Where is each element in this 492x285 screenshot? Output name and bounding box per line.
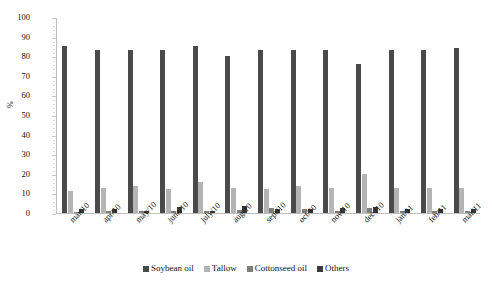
bar-group xyxy=(90,17,123,213)
y-axis-minor-tick xyxy=(53,124,55,125)
legend: Soybean oilTallowCottonseed oilOthers xyxy=(0,262,492,273)
y-axis-minor-tick xyxy=(53,210,55,211)
bar xyxy=(225,56,230,213)
bar xyxy=(323,50,328,213)
legend-label: Others xyxy=(325,263,349,273)
y-axis-minor-tick xyxy=(53,108,55,109)
bar-group xyxy=(155,17,188,213)
y-axis-minor-tick xyxy=(53,26,55,27)
y-axis-minor-tick xyxy=(53,42,55,43)
legend-swatch-icon xyxy=(317,266,323,272)
bar xyxy=(231,188,236,213)
bar xyxy=(291,50,296,213)
y-axis-minor-tick xyxy=(53,85,55,86)
y-axis-tick-label: 10 xyxy=(0,189,30,198)
y-axis-minor-tick xyxy=(53,61,55,62)
bar xyxy=(68,191,73,213)
y-axis-minor-tick xyxy=(53,147,55,148)
bar-group xyxy=(285,17,318,213)
y-axis-minor-tick xyxy=(53,171,55,172)
legend-item[interactable]: Soybean oil xyxy=(143,263,194,273)
y-axis-minor-tick xyxy=(53,30,55,31)
y-axis-minor-tick xyxy=(53,22,55,23)
y-axis-minor-tick xyxy=(53,190,55,191)
y-axis-minor-tick xyxy=(53,187,55,188)
y-axis-minor-tick xyxy=(53,69,55,70)
y-axis-tick-label: 40 xyxy=(0,131,30,140)
y-axis: 0102030405060708090100 xyxy=(0,0,52,285)
legend-item[interactable]: Cottonseed oil xyxy=(247,263,307,273)
bar xyxy=(394,188,399,213)
bar xyxy=(454,48,459,213)
bar-group xyxy=(351,17,384,213)
y-axis-minor-tick xyxy=(53,183,55,184)
legend-item[interactable]: Tallow xyxy=(204,263,237,273)
legend-label: Soybean oil xyxy=(151,263,194,273)
y-axis-minor-tick xyxy=(53,179,55,180)
plot-area xyxy=(56,18,480,214)
bar xyxy=(427,188,432,213)
y-axis-minor-tick xyxy=(53,45,55,46)
y-axis-tick-label: 60 xyxy=(0,91,30,100)
bar xyxy=(198,182,203,213)
bar-group xyxy=(122,17,155,213)
bar xyxy=(160,50,165,213)
bar xyxy=(264,189,269,213)
legend-swatch-icon xyxy=(143,266,149,272)
y-axis-minor-tick xyxy=(53,34,55,35)
bar xyxy=(128,50,133,213)
bar xyxy=(459,188,464,213)
bar xyxy=(258,50,263,213)
y-axis-minor-tick xyxy=(53,92,55,93)
bar-group xyxy=(448,17,481,213)
legend-label: Tallow xyxy=(212,263,237,273)
y-axis-minor-tick xyxy=(53,159,55,160)
y-axis-minor-tick xyxy=(53,100,55,101)
y-axis-minor-tick xyxy=(53,81,55,82)
bar-group xyxy=(253,17,286,213)
y-axis-tick-label: 0 xyxy=(0,209,30,218)
y-axis-tick-label: 90 xyxy=(0,33,30,42)
legend-swatch-icon xyxy=(204,266,210,272)
bar xyxy=(166,189,171,213)
y-axis-minor-tick xyxy=(53,151,55,152)
y-axis-minor-tick xyxy=(53,89,55,90)
bar-group xyxy=(383,17,416,213)
bar-group xyxy=(220,17,253,213)
y-axis-minor-tick xyxy=(53,120,55,121)
y-axis-minor-tick xyxy=(53,128,55,129)
legend-label: Cottonseed oil xyxy=(255,263,307,273)
y-axis-minor-tick xyxy=(53,198,55,199)
y-axis-minor-tick xyxy=(53,167,55,168)
y-axis-tick-label: 70 xyxy=(0,72,30,81)
y-axis-minor-tick xyxy=(53,163,55,164)
y-axis-minor-tick xyxy=(53,112,55,113)
y-axis-minor-tick xyxy=(53,104,55,105)
bar xyxy=(101,188,106,213)
bar xyxy=(329,188,334,213)
y-axis-tick-label: 20 xyxy=(0,170,30,179)
bar xyxy=(193,46,198,213)
y-axis-minor-tick xyxy=(53,140,55,141)
bar xyxy=(95,50,100,213)
bar-group xyxy=(318,17,351,213)
y-axis-minor-tick xyxy=(53,73,55,74)
legend-item[interactable]: Others xyxy=(317,263,349,273)
bar xyxy=(356,64,361,213)
bar xyxy=(362,174,367,213)
y-axis-tick-label: 30 xyxy=(0,150,30,159)
y-axis-minor-tick xyxy=(53,132,55,133)
bar-group xyxy=(57,17,90,213)
y-axis-minor-tick xyxy=(53,65,55,66)
bar-group xyxy=(187,17,220,213)
bar xyxy=(296,186,301,213)
y-axis-tick-label: 80 xyxy=(0,52,30,61)
y-axis-tick-mark xyxy=(52,214,56,215)
bar xyxy=(62,46,67,213)
legend-swatch-icon xyxy=(247,266,253,272)
y-axis-tick-label: 100 xyxy=(0,13,30,22)
y-axis-minor-tick xyxy=(53,53,55,54)
bar-chart: % 0102030405060708090100 mar/10apr/10may… xyxy=(0,0,492,285)
y-axis-minor-tick xyxy=(53,202,55,203)
bar-group xyxy=(416,17,449,213)
